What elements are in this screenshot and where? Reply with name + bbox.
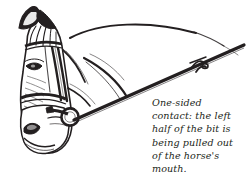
caption-line: contact: the left: [152, 109, 247, 122]
bit-ring: [61, 108, 78, 126]
neck-underline: [84, 54, 127, 99]
caption-line: half of the bit is: [152, 122, 247, 135]
jaw-line: [68, 84, 95, 106]
neck-crest-line: [70, 24, 238, 55]
figure-one-sided-contact: One-sided contact: the left half of the …: [0, 0, 249, 188]
caption-line: One-sided: [152, 96, 247, 109]
caption-line: of the horse's: [152, 149, 247, 162]
caption-line: being pulled out: [152, 136, 247, 149]
caption: One-sided contact: the left half of the …: [152, 96, 247, 175]
caption-line: mouth.: [152, 162, 247, 175]
